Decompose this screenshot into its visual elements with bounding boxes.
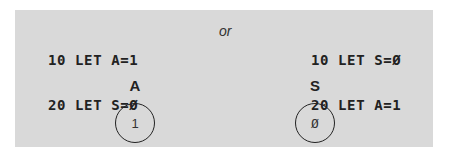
variable-a-label: A (125, 77, 145, 94)
or-separator: or (219, 23, 231, 39)
code-line: 10 LET A=1 (48, 53, 138, 68)
variable-s-value: Ø (311, 116, 319, 131)
variable-s-box: Ø (295, 103, 335, 143)
code-line: -- (311, 143, 401, 150)
variable-a-box: 1 (115, 103, 155, 143)
variable-a-value: 1 (131, 116, 138, 131)
code-line: -- (48, 143, 138, 150)
code-line: 10 LET S=Ø (311, 53, 401, 68)
variable-s-label: S (305, 77, 325, 94)
